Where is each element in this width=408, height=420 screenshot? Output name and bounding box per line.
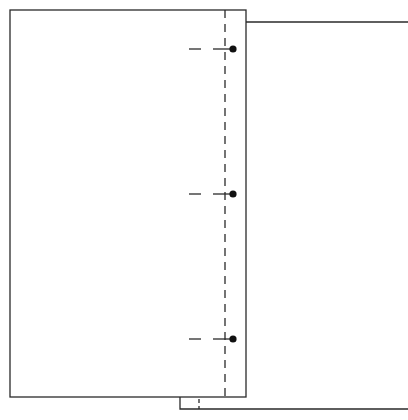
pin-dot-icon — [229, 335, 236, 342]
pin-dot-icon — [229, 190, 236, 197]
diagram-canvas — [0, 0, 408, 420]
pin-dot-icon — [229, 45, 236, 52]
back-panel-bottom-edge — [180, 397, 408, 409]
front-panel — [10, 10, 246, 397]
